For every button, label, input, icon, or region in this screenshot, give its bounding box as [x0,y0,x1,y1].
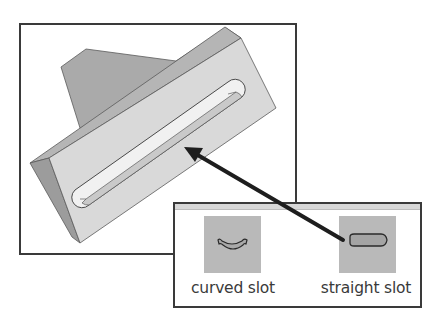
diagram-stage: curved slot straight slot [0,0,444,321]
callout-arrow [0,0,444,321]
